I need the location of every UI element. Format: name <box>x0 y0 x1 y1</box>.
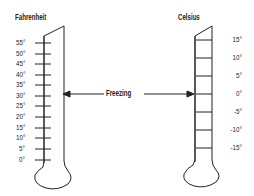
fahrenheit-tick-label: 30° <box>16 92 25 100</box>
fahrenheit-tick-label: 20° <box>16 113 25 121</box>
freezing-label: Freezing <box>106 88 131 98</box>
celsius-tick-label: 5° <box>219 72 242 80</box>
fahrenheit-tick-label: 10° <box>16 134 25 142</box>
celsius-tick-label: -10° <box>219 126 242 134</box>
fahrenheit-tick-label: 45° <box>16 60 25 68</box>
arrow-right-icon <box>187 91 194 97</box>
fahrenheit-tick-label: 35° <box>16 81 25 89</box>
celsius-tick-label: 10° <box>219 54 242 62</box>
celsius-tick-label: 15° <box>219 36 242 44</box>
thermometer-drawing <box>0 0 254 196</box>
fahrenheit-tick-label: 55° <box>16 39 25 47</box>
fahrenheit-tick-label: 25° <box>16 102 25 110</box>
fahrenheit-tick-label: 15° <box>16 124 25 132</box>
fahrenheit-tick-label: 0° <box>19 156 25 164</box>
celsius-title: Celsius <box>178 12 200 22</box>
fahrenheit-thermometer-icon <box>35 26 71 189</box>
thermometer-diagram: Fahrenheit Celsius 55° 50° 45° 40° 35° 3… <box>0 0 254 196</box>
fahrenheit-tick-label: 40° <box>16 71 25 79</box>
celsius-tick-label: -15° <box>219 144 242 152</box>
celsius-thermometer-icon <box>184 26 219 187</box>
fahrenheit-tick-label: 5° <box>19 145 25 153</box>
fahrenheit-tick-label: 50° <box>16 50 25 58</box>
fahrenheit-title: Fahrenheit <box>15 12 46 22</box>
celsius-tick-label: -5° <box>219 108 242 116</box>
celsius-tick-label: 0° <box>219 90 242 98</box>
